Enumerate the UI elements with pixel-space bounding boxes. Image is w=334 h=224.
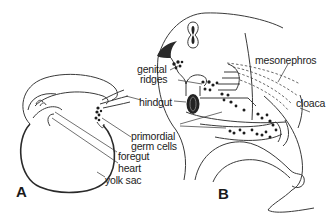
germ-cells-panel-a: [95, 106, 103, 121]
label-yolk-sac: yolk sac: [105, 175, 141, 185]
body-wall-outline: [158, 13, 283, 58]
heart-bulge: [48, 114, 54, 126]
hindgut-leader-b: [174, 101, 186, 102]
genital-ridges-leader: [178, 80, 202, 84]
germ-cells-migrating: [201, 80, 277, 131]
diagram-drawing: [0, 0, 334, 224]
panel-b-drawing: [157, 13, 314, 212]
label-cloaca: cloaca: [296, 98, 325, 108]
heart-leader: [52, 118, 118, 163]
germ-cells-ventral: [229, 129, 272, 139]
panel-label-a: A: [16, 183, 27, 200]
label-mesonephros: mesonephros: [255, 55, 316, 65]
label-ridges: ridges: [140, 74, 167, 84]
label-foregut: foregut: [118, 151, 149, 161]
foregut-pocket: [33, 107, 62, 118]
primordial-leader-a: [102, 118, 131, 137]
dorsal-wedge: [157, 41, 177, 58]
neural-tube-outer: [188, 22, 198, 48]
neural-tube-lumen: [192, 26, 195, 44]
panel-label-b: B: [218, 185, 229, 202]
mesonephros-leader: [278, 64, 288, 82]
yolk-sac-outline: [21, 124, 115, 192]
embryo-diagram: genital ridges hindgut primordial germ c…: [0, 0, 334, 224]
primordial-leader-b1: [180, 112, 222, 124]
yolk-sac-leader: [97, 172, 105, 177]
label-heart: heart: [118, 163, 141, 173]
label-hindgut: hindgut: [139, 97, 172, 107]
